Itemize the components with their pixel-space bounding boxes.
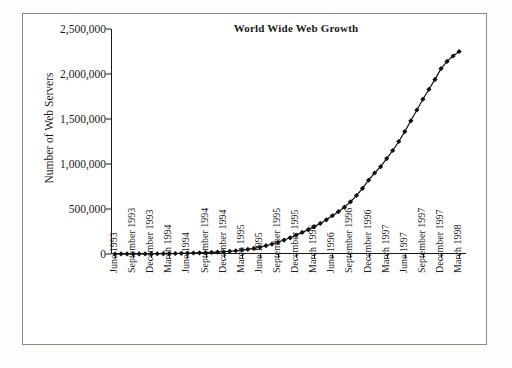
data-point-marker	[420, 97, 425, 102]
data-point-marker	[191, 250, 196, 255]
y-tick-label: 1,000,000	[60, 158, 111, 170]
x-tick-label: June 1997	[398, 232, 409, 273]
data-point-marker	[432, 77, 437, 82]
x-tick-label: September 1993	[126, 208, 137, 273]
data-point-marker	[426, 87, 431, 92]
x-tick-label: March 1996	[307, 224, 318, 273]
x-tick-label: December 1994	[217, 209, 228, 273]
y-tick-label: 500,000	[69, 203, 111, 215]
x-tick-label: December 1995	[289, 209, 300, 273]
data-point-marker	[173, 251, 178, 256]
data-point-marker	[414, 107, 419, 112]
data-point-marker	[408, 118, 413, 123]
chart-figure-frame: World Wide Web Growth Number of Web Serv…	[22, 13, 487, 345]
x-tick-label: December 1996	[362, 209, 373, 273]
x-tick-label: June 1996	[325, 232, 336, 273]
data-point-marker	[318, 221, 323, 226]
x-tick-label: September 1994	[199, 208, 210, 273]
data-point-marker	[155, 251, 160, 256]
data-point-marker	[118, 251, 123, 256]
x-tick-label: March 1998	[452, 224, 463, 273]
x-tick-label: June 1993	[108, 232, 119, 273]
data-point-marker	[300, 230, 305, 235]
x-tick-label: June 1994	[180, 232, 191, 273]
x-tick-label: December 1997	[434, 209, 445, 273]
y-tick-label: 2,000,000	[60, 68, 111, 80]
y-axis-label: Number of Web Servers	[43, 28, 55, 228]
x-tick-label: June 1995	[253, 232, 264, 273]
data-point-marker	[245, 247, 250, 252]
data-point-marker	[281, 237, 286, 242]
data-point-marker	[402, 129, 407, 134]
x-tick-label: March 1997	[380, 224, 391, 273]
x-tick-label: September 1996	[343, 208, 354, 273]
x-tick-label: September 1995	[271, 208, 282, 273]
x-tick-label: March 1995	[235, 224, 246, 273]
data-point-marker	[263, 243, 268, 248]
y-tick-label: 2,500,000	[60, 23, 111, 35]
data-point-marker	[137, 251, 142, 256]
x-tick-label: March 1994	[162, 224, 173, 273]
x-tick-label: September 1997	[416, 208, 427, 273]
x-tick-label: December 1993	[144, 209, 155, 273]
y-tick-label: 1,500,000	[60, 113, 111, 125]
